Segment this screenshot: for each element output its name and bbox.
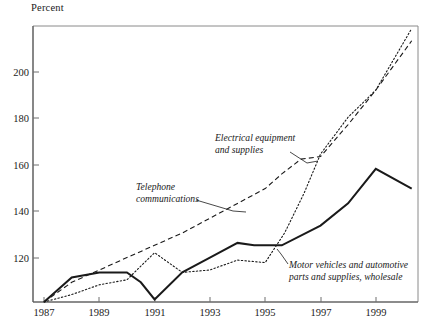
y-tick-label-180: 180 bbox=[13, 113, 29, 124]
x-axis-ticks: 1987 1989 1991 1993 1995 1997 1999 bbox=[34, 297, 387, 318]
annotation-leaders bbox=[196, 152, 318, 264]
x-tick-label-1997: 1997 bbox=[311, 307, 332, 318]
annotation-telephone-line1: Telephone bbox=[136, 181, 176, 192]
annotation-electrical-line1: Electrical equipment bbox=[214, 132, 296, 143]
y-tick-label-120: 120 bbox=[13, 253, 29, 264]
x-tick-label-1989: 1989 bbox=[89, 307, 110, 318]
x-tick-label-1993: 1993 bbox=[200, 307, 221, 318]
annotation-motor-vehicles: Motor vehicles and automotive parts and … bbox=[288, 259, 409, 282]
y-tick-label-160: 160 bbox=[13, 160, 29, 171]
annotation-telephone-line2: communications bbox=[136, 193, 199, 204]
x-tick-label-1987: 1987 bbox=[34, 307, 55, 318]
x-tick-label-1999: 1999 bbox=[366, 307, 387, 318]
annotation-telephone-communications: Telephone communications bbox=[136, 181, 199, 204]
y-tick-label-140: 140 bbox=[13, 206, 29, 217]
line-chart-plot: 200 180 160 140 120 1987 1989 1991 1993 … bbox=[0, 0, 431, 329]
x-tick-label-1991: 1991 bbox=[145, 307, 166, 318]
annotation-electrical-equipment: Electrical equipment and supplies bbox=[214, 132, 296, 155]
annotation-motor-line2: parts and supplies, wholesale bbox=[288, 271, 403, 282]
y-axis-ticks: 200 180 160 140 120 bbox=[13, 67, 39, 264]
chart-figure: Percent 200 180 160 140 120 bbox=[0, 0, 431, 329]
y-tick-label-200: 200 bbox=[13, 67, 29, 78]
annotation-motor-line1: Motor vehicles and automotive bbox=[288, 259, 409, 270]
annotation-electrical-line2: and supplies bbox=[215, 144, 264, 155]
x-tick-label-1995: 1995 bbox=[255, 307, 276, 318]
series-line-motor-vehicles-and-automotive-parts bbox=[44, 169, 412, 302]
